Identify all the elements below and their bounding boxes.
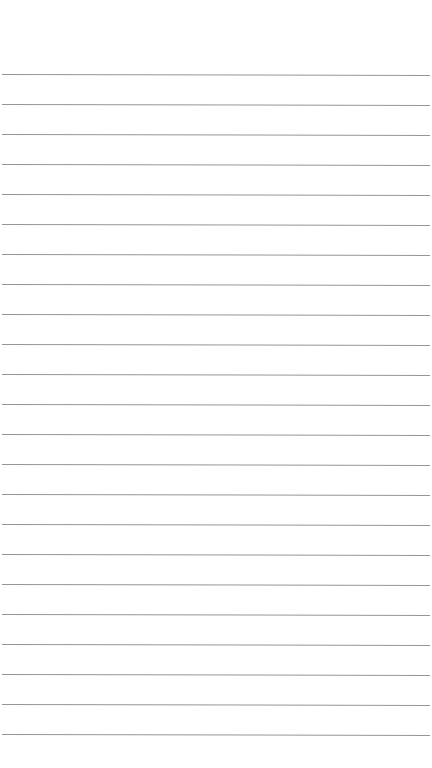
ruled-line xyxy=(2,584,430,586)
ruled-line xyxy=(2,344,430,346)
ruled-line xyxy=(2,644,430,646)
ruled-line xyxy=(2,704,430,706)
ruled-line xyxy=(2,404,430,406)
ruled-line xyxy=(2,554,430,556)
ruled-line xyxy=(2,614,430,616)
ruled-line xyxy=(2,224,430,226)
ruled-line xyxy=(2,164,430,166)
ruled-line xyxy=(2,104,430,106)
ruled-line xyxy=(2,464,430,466)
ruled-line xyxy=(2,254,430,256)
lined-paper-page xyxy=(0,0,432,768)
ruled-line xyxy=(2,284,430,286)
ruled-line xyxy=(2,674,430,676)
ruled-line xyxy=(2,434,430,436)
ruled-line xyxy=(2,74,430,76)
ruled-line xyxy=(2,374,430,376)
ruled-line xyxy=(2,194,430,196)
ruled-line xyxy=(2,524,430,526)
ruled-line xyxy=(2,134,430,136)
ruled-line xyxy=(2,494,430,496)
ruled-line xyxy=(2,314,430,316)
ruled-line xyxy=(2,734,430,736)
